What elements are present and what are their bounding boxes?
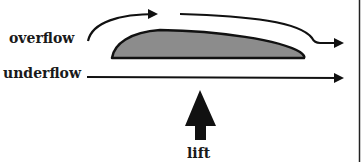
underflow-label: underflow: [3, 66, 81, 80]
lift-diagram: overflow underflow lift: [0, 0, 363, 162]
underflow-arrow: [87, 77, 342, 78]
overflow-label: overflow: [9, 31, 74, 45]
lift-label: lift: [187, 146, 210, 160]
diagram-canvas: [0, 0, 363, 162]
airfoil-shape: [112, 30, 304, 58]
lift-arrow-icon: [185, 90, 216, 140]
